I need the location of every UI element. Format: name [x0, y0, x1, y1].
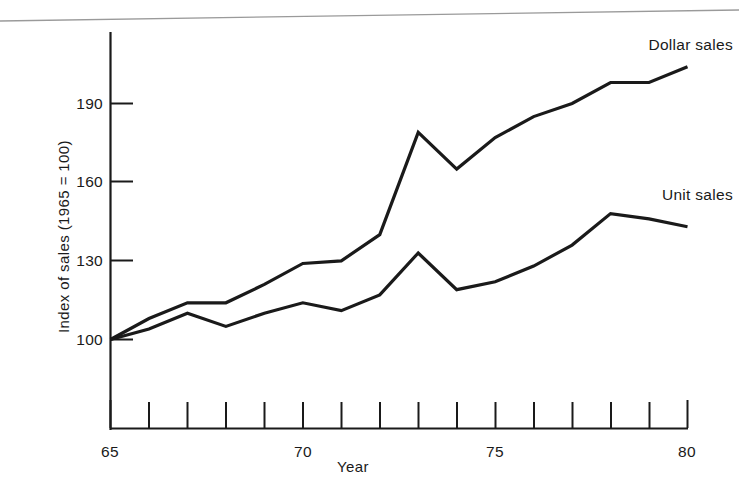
y-axis-ticks [111, 104, 133, 340]
y-tick-label-130: 130 [76, 252, 103, 269]
x-axis-ticks [111, 400, 688, 428]
line-chart-canvas: 190 160 130 100 65 70 75 80 [0, 0, 739, 489]
y-tick-label-100: 100 [76, 331, 103, 348]
chart-figure: 190 160 130 100 65 70 75 80 [0, 0, 739, 489]
y-tick-label-160: 160 [76, 173, 103, 190]
x-tick-label-80: 80 [678, 443, 696, 460]
series-line-unit-sales [111, 214, 688, 340]
series-line-dollar-sales [111, 67, 688, 340]
x-axis-title: Year [337, 458, 369, 475]
series-label-dollar-sales: Dollar sales [648, 36, 733, 53]
x-tick-label-75: 75 [486, 443, 504, 460]
x-tick-label-70: 70 [294, 443, 312, 460]
x-tick-label-65: 65 [101, 443, 119, 460]
y-axis-title: Index of sales (1965 = 100) [55, 112, 72, 362]
y-tick-label-190: 190 [76, 95, 103, 112]
series-label-unit-sales: Unit sales [662, 186, 733, 203]
